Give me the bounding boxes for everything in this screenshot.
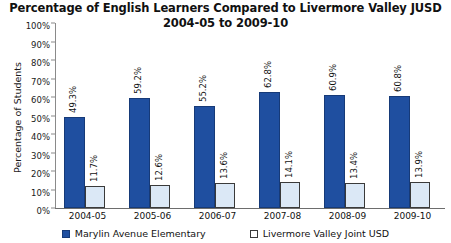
- y-axis-tick: 60%: [0, 88, 55, 107]
- legend-swatch-icon: [250, 230, 258, 238]
- bar-group: 55.2%13.6%: [185, 23, 250, 208]
- legend-item-livermore-valley[interactable]: Livermore Valley Joint USD: [250, 228, 389, 239]
- bar-livermore-valley[interactable]: 13.6%: [215, 183, 236, 208]
- bar-group: 62.8%14.1%: [250, 23, 315, 208]
- y-axis-tick: 0%: [0, 199, 55, 218]
- bar-group: 60.8%13.9%: [380, 23, 445, 208]
- x-axis-category-label: 2004-05: [55, 211, 120, 221]
- x-axis-category-label: 2007-08: [250, 211, 315, 221]
- y-axis-tick-mark: [51, 208, 55, 209]
- y-axis-tick-mark: [51, 189, 55, 190]
- bar-marylin-avenue[interactable]: 55.2%: [194, 106, 215, 208]
- legend-swatch-icon: [62, 230, 70, 238]
- y-axis-tick: 10%: [0, 180, 55, 199]
- x-axis-category-label: 2005-06: [120, 211, 185, 221]
- bar-value-label: 13.6%: [218, 152, 228, 179]
- x-axis-category-label: 2009-10: [380, 211, 445, 221]
- bar-livermore-valley[interactable]: 13.9%: [410, 182, 431, 208]
- bar-value-label: 11.7%: [88, 155, 98, 182]
- y-axis-tick: 20%: [0, 162, 55, 181]
- y-axis-tick: 50%: [0, 106, 55, 125]
- chart-legend: Marylin Avenue ElementaryLivermore Valle…: [0, 228, 451, 239]
- bar-marylin-avenue[interactable]: 60.9%: [324, 95, 345, 208]
- legend-label: Livermore Valley Joint USD: [263, 228, 389, 239]
- x-axis-category-label: 2006-07: [185, 211, 250, 221]
- bar-value-label: 13.9%: [413, 151, 423, 178]
- bar-group: 59.2%12.6%: [120, 23, 185, 208]
- y-axis-tick-mark: [51, 152, 55, 153]
- x-axis-line: [55, 208, 445, 209]
- bar-group: 49.3%11.7%: [55, 23, 120, 208]
- y-axis-tick-mark: [51, 97, 55, 98]
- chart-title-line-1: Percentage of English Learners Compared …: [9, 1, 441, 15]
- y-axis-tick-mark: [51, 171, 55, 172]
- bar-livermore-valley[interactable]: 14.1%: [280, 182, 301, 208]
- bar-value-label: 59.2%: [133, 67, 143, 94]
- bar-value-label: 60.8%: [393, 65, 403, 92]
- y-axis-tick-mark: [51, 78, 55, 79]
- bar-value-label: 12.6%: [153, 154, 163, 181]
- bar-value-label: 13.4%: [348, 152, 358, 179]
- plot-area: 49.3%11.7%59.2%12.6%55.2%13.6%62.8%14.1%…: [55, 23, 445, 208]
- bar-marylin-avenue[interactable]: 59.2%: [129, 98, 150, 208]
- legend-item-marylin-avenue[interactable]: Marylin Avenue Elementary: [62, 228, 206, 239]
- bar-value-label: 14.1%: [283, 151, 293, 178]
- y-axis-tick-mark: [51, 115, 55, 116]
- bar-value-label: 49.3%: [68, 86, 78, 113]
- y-axis-tick-mark: [51, 23, 55, 24]
- bar-livermore-valley[interactable]: 12.6%: [150, 185, 171, 208]
- y-axis-tick: 90%: [0, 32, 55, 51]
- chart-container: Percentage of English Learners Compared …: [0, 0, 451, 243]
- y-axis-tick-mark: [51, 60, 55, 61]
- bar-value-label: 60.9%: [328, 64, 338, 91]
- bar-value-label: 55.2%: [198, 75, 208, 102]
- y-axis-tick: 100%: [0, 14, 55, 33]
- y-axis-tick: 30%: [0, 143, 55, 162]
- bar-value-label: 62.8%: [263, 61, 273, 88]
- y-axis-tick: 80%: [0, 51, 55, 70]
- y-axis-tick-mark: [51, 41, 55, 42]
- y-axis-tick: 40%: [0, 125, 55, 144]
- bar-livermore-valley[interactable]: 13.4%: [345, 183, 366, 208]
- bar-marylin-avenue[interactable]: 62.8%: [259, 92, 280, 208]
- x-axis-category-label: 2008-09: [315, 211, 380, 221]
- bar-marylin-avenue[interactable]: 60.8%: [389, 96, 410, 208]
- y-axis-tick: 70%: [0, 69, 55, 88]
- y-axis-tick-mark: [51, 134, 55, 135]
- bar-marylin-avenue[interactable]: 49.3%: [64, 117, 85, 208]
- bar-livermore-valley[interactable]: 11.7%: [85, 186, 106, 208]
- legend-label: Marylin Avenue Elementary: [75, 228, 206, 239]
- bar-group: 60.9%13.4%: [315, 23, 380, 208]
